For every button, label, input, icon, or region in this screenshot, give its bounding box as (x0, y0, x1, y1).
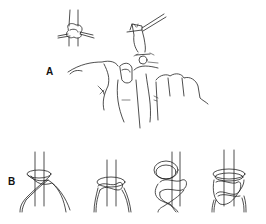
step-2-illustration (94, 160, 131, 212)
needle-holder-illustration (127, 14, 166, 64)
inset-knot-illustration (58, 10, 94, 46)
knot-tying-figure: A B (0, 0, 266, 224)
step-3-illustration (154, 152, 187, 212)
step-1-illustration (20, 152, 70, 212)
illustration-lines (0, 0, 266, 224)
step-4-illustration (212, 150, 246, 212)
hand-illustration (68, 61, 208, 128)
